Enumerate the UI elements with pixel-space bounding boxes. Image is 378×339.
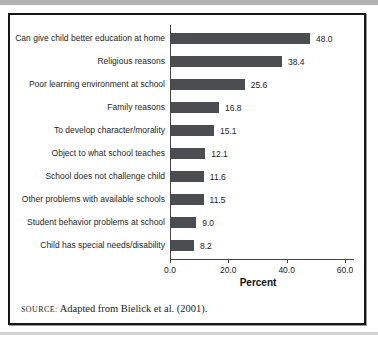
x-tick-mark: [228, 260, 229, 263]
category-label: Poor learning environment at school: [10, 80, 165, 89]
bar-row: Religious reasons38.4: [10, 50, 364, 73]
x-tick-label: 0.0: [155, 265, 185, 275]
value-label: 16.8: [225, 103, 242, 113]
category-label: To develop character/morality: [10, 126, 165, 135]
bar: [170, 194, 204, 205]
page: Can give child better education at home4…: [0, 0, 378, 339]
category-label: Other problems with available schools: [10, 195, 165, 204]
category-label: Student behavior problems at school: [10, 218, 165, 227]
category-label: Family reasons: [10, 103, 165, 112]
x-tick-label: 40.0: [272, 265, 302, 275]
category-label: School does not challenge child: [10, 172, 165, 181]
value-label: 11.6: [210, 172, 226, 182]
bar-row: Poor learning environment at school25.6: [10, 73, 364, 96]
value-label: 12.1: [211, 149, 228, 159]
x-tick-mark: [170, 260, 171, 263]
bar-row: Object to what school teaches12.1: [10, 142, 364, 165]
bar: [170, 217, 196, 228]
bar: [170, 148, 205, 159]
bar: [170, 171, 204, 182]
bar-row: Other problems with available schools11.…: [10, 188, 364, 211]
bar-row: Family reasons16.8: [10, 96, 364, 119]
x-axis-line: [170, 259, 354, 260]
y-axis-line: [170, 25, 171, 259]
category-label: Object to what school teaches: [10, 149, 165, 158]
bar-rows: Can give child better education at home4…: [10, 27, 364, 257]
source-text: Adapted from Bielick et al. (2001).: [58, 303, 208, 314]
value-label: 25.6: [251, 80, 268, 90]
bar-row: Can give child better education at home4…: [10, 27, 364, 50]
bar: [170, 102, 219, 113]
x-axis-title: Percent: [170, 277, 346, 288]
category-label: Child has special needs/disability: [10, 241, 165, 250]
bar: [170, 240, 194, 251]
x-tick-label: 20.0: [213, 265, 243, 275]
bar-row: School does not challenge child11.6: [10, 165, 364, 188]
bar-row: To develop character/morality15.1: [10, 119, 364, 142]
x-tick-mark: [287, 260, 288, 263]
source-note: SOURCE: Adapted from Bielick et al. (200…: [21, 303, 207, 314]
bar-row: Student behavior problems at school9.0: [10, 211, 364, 234]
value-label: 48.0: [316, 34, 333, 44]
scan-edge-bottom: [0, 332, 378, 335]
bar: [170, 33, 310, 44]
bar: [170, 56, 282, 67]
value-label: 38.4: [288, 57, 305, 67]
bar-row: Child has special needs/disability8.2: [10, 234, 364, 257]
value-label: 15.1: [220, 126, 237, 136]
x-tick-label: 60.0: [330, 265, 360, 275]
x-tick-mark: [345, 260, 346, 263]
value-label: 8.2: [200, 241, 212, 251]
value-label: 9.0: [202, 218, 214, 228]
value-label: 11.5: [210, 195, 226, 205]
scan-edge-top: [0, 0, 378, 5]
bar: [170, 125, 214, 136]
source-label: SOURCE:: [21, 305, 58, 314]
bar: [170, 79, 245, 90]
category-label: Can give child better education at home: [10, 34, 165, 43]
bar-chart: Can give child better education at home4…: [10, 15, 364, 295]
figure-frame: Can give child better education at home4…: [8, 13, 366, 325]
category-label: Religious reasons: [10, 57, 165, 66]
